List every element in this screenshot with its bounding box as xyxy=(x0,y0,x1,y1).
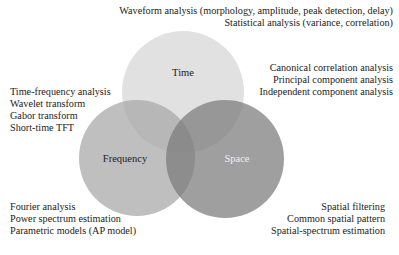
space-label: Space xyxy=(224,153,249,164)
space-methods-text: Spatial filtering Common spatial pattern… xyxy=(271,201,385,237)
time-frequency-method-3: Gabor transform xyxy=(10,110,111,122)
multivariate-method-3: Independent component analysis xyxy=(259,86,393,98)
time-methods-text: Waveform analysis (morphology, amplitude… xyxy=(119,5,393,29)
space-method-2: Common spatial pattern xyxy=(271,213,385,225)
time-frequency-methods-text: Time-frequency analysis Wavelet transfor… xyxy=(10,86,111,134)
frequency-label: Frequency xyxy=(103,153,147,164)
space-method-3: Spatial-spectrum estimation xyxy=(271,225,385,237)
time-frequency-method-4: Short-time TFT xyxy=(10,122,111,134)
space-method-1: Spatial filtering xyxy=(271,201,385,213)
frequency-method-1: Fourier analysis xyxy=(10,201,136,213)
frequency-methods-text: Fourier analysis Power spectrum estimati… xyxy=(10,201,136,237)
frequency-method-3: Parametric models (AP model) xyxy=(10,225,136,237)
time-method-1: Waveform analysis (morphology, amplitude… xyxy=(119,5,393,17)
time-frequency-method-2: Wavelet transform xyxy=(10,98,111,110)
multivariate-method-1: Canonical correlation analysis xyxy=(259,62,393,74)
multivariate-methods-text: Canonical correlation analysis Principal… xyxy=(259,62,393,98)
time-method-2: Statistical analysis (variance, correlat… xyxy=(119,17,393,29)
time-frequency-method-1: Time-frequency analysis xyxy=(10,86,111,98)
multivariate-method-2: Principal component analysis xyxy=(259,74,393,86)
time-label: Time xyxy=(172,67,194,78)
frequency-method-2: Power spectrum estimation xyxy=(10,213,136,225)
